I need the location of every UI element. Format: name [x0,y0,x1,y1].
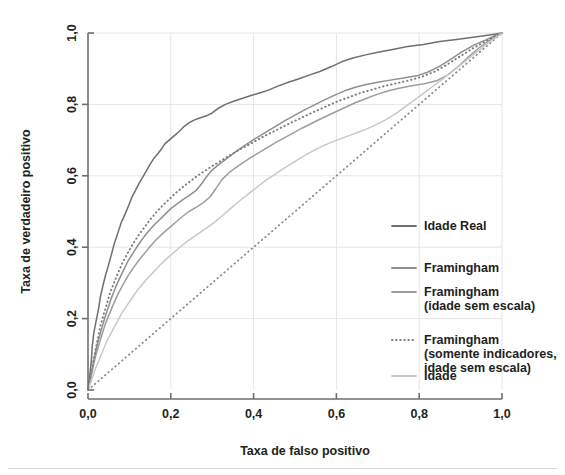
x-tick-label-2: 0,4 [245,407,262,421]
x-tick-label-3: 0,6 [328,407,345,421]
y-tick-label-3: 0,6 [65,167,79,184]
x-tick-label-1: 0,2 [162,407,179,421]
legend-label-2-line-1[interactable]: (idade sem escala) [424,299,535,313]
roc-chart-figure: 0,00,20,40,60,81,00,00,20,40,60,81,0Taxa… [0,0,565,475]
legend-label-3-line-1[interactable]: (somente indicadores, [424,347,557,361]
legend-label-0[interactable]: Idade Real [424,219,487,233]
legend-label-3-line-0[interactable]: Framingham [424,333,499,347]
x-tick-label-0: 0,0 [79,407,96,421]
legend-label-2-line-0[interactable]: Framingham [424,285,499,299]
x-tick-label-4: 0,8 [411,407,428,421]
y-tick-label-1: 0,2 [65,310,79,327]
x-tick-label-5: 1,0 [493,407,510,421]
legend: Idade RealFraminghamFramingham(idade sem… [392,219,557,383]
legend-label-1[interactable]: Framingham [424,261,499,275]
x-axis-title: Taxa de falso positivo [240,444,370,458]
footer-divider [8,468,557,469]
roc-curve-plot: 0,00,20,40,60,81,00,00,20,40,60,81,0Taxa… [0,0,565,475]
y-tick-label-4: 0,8 [65,96,79,113]
y-tick-label-0: 0,0 [65,381,79,398]
y-tick-label-5: 1,0 [65,24,79,41]
legend-label-4[interactable]: Idade [424,369,457,383]
y-tick-label-2: 0,4 [65,238,79,255]
y-axis-title: Taxa de verdadeiro positivo [19,129,33,294]
